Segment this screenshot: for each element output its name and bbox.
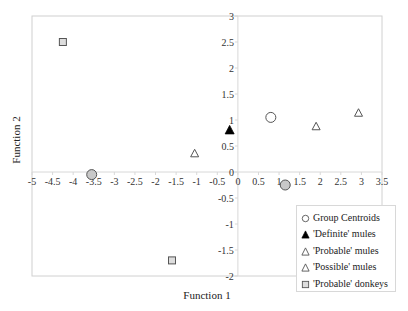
legend-label: Group Centroids [313,211,380,225]
y-tick-label: 3 [229,11,234,22]
x-axis-title: Function 1 [183,289,230,301]
x-tick-label: 0.5 [252,176,265,187]
centroid-point [87,170,97,180]
circle-icon [301,214,310,223]
legend-label: 'Possible' mules [313,260,376,274]
y-tick-label: 1.5 [221,89,234,100]
y-tick-label: 0.5 [221,141,234,152]
chart-legend: Group Centroids 'Definite' mules 'Probab… [296,205,396,292]
y-tick-label: -1.5 [218,245,234,256]
legend-item-probable-donkeys: 'Probable' donkeys [301,277,388,291]
y-tick-label: 0 [229,167,234,178]
x-tick-label: -1.5 [168,176,184,187]
donkey-point [169,257,176,264]
x-tick-label: 3.5 [376,176,389,187]
x-tick-label: -0.5 [209,176,225,187]
legend-item-definite-mules: 'Definite' mules [301,227,376,241]
x-tick-label: 3 [359,176,364,187]
x-tick-label: 0 [235,176,240,187]
open-triangle-icon [301,263,310,272]
legend-item-possible-mules: 'Possible' mules [301,260,376,274]
filled-triangle-icon [301,230,310,239]
y-axis-title: Function 2 [10,116,22,163]
y-tick-label: 2 [229,63,234,74]
legend-item-group-centroids: Group Centroids [301,211,380,225]
donkey-point [59,39,66,46]
y-tick-label: -0.5 [218,193,234,204]
legend-label: 'Definite' mules [313,227,376,241]
x-tick-label: 2.5 [335,176,348,187]
x-tick-label: -5 [28,176,36,187]
x-tick-label: 2 [318,176,323,187]
x-tick-label: -1 [193,176,201,187]
x-tick-label: -4 [69,176,77,187]
x-tick-label: -4.5 [45,176,61,187]
x-tick-label: -3 [110,176,118,187]
y-tick-label: -1 [226,219,234,230]
centroid-point [280,180,290,190]
x-tick-label: 1.5 [293,176,306,187]
open-triangle-icon [301,247,310,256]
y-tick-label: 1 [229,115,234,126]
square-icon [301,280,310,289]
y-tick-label: 2.5 [221,37,234,48]
y-tick-label: -2 [226,271,234,282]
x-tick-label: -2 [151,176,159,187]
legend-item-probable-mules: 'Probable' mules [301,244,379,258]
legend-label: 'Probable' mules [313,244,379,258]
centroid-point [266,112,276,122]
x-tick-label: -2.5 [127,176,143,187]
legend-label: 'Probable' donkeys [313,277,388,291]
